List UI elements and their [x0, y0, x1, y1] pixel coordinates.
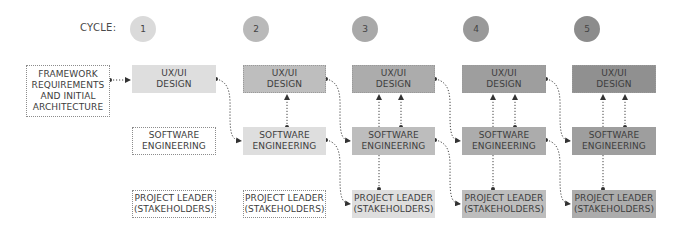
software-engineering-box-cycle-1: SOFTWARE ENGINEERING	[132, 127, 216, 155]
sw-label-line-2: ENGINEERING	[472, 141, 536, 152]
sw-label-line-2: ENGINEERING	[362, 141, 426, 152]
framework-line-2: REQUIREMENTS	[32, 80, 105, 91]
ux-design-box-cycle-4: UX/UI DESIGN	[462, 65, 546, 93]
pl-label-line-1: PROJECT LEADER	[465, 193, 544, 204]
framework-line-3: AND INITIAL	[40, 91, 95, 102]
framework-line-4: ARCHITECTURE	[33, 102, 103, 113]
sw-label-line-1: SOFTWARE	[149, 130, 200, 141]
ux-design-box-cycle-5: UX/UI DESIGN	[572, 65, 656, 93]
software-engineering-box-cycle-5: SOFTWARE ENGINEERING	[572, 127, 656, 155]
project-leader-box-cycle-1: PROJECT LEADER (STAKEHOLDERS)	[132, 190, 216, 218]
ux-label-line-1: UX/UI	[601, 68, 627, 79]
pl-label-line-1: PROJECT LEADER	[354, 193, 433, 204]
project-leader-box-cycle-3: PROJECT LEADER (STAKEHOLDERS)	[352, 190, 435, 218]
ux-label-line-2: DESIGN	[156, 79, 191, 90]
sw-label-line-1: SOFTWARE	[259, 130, 310, 141]
ux-design-box-cycle-2: UX/UI DESIGN	[243, 65, 326, 93]
pl-label-line-2: (STAKEHOLDERS)	[353, 204, 433, 215]
sw-label-line-1: SOFTWARE	[589, 130, 640, 141]
project-leader-box-cycle-5: PROJECT LEADER (STAKEHOLDERS)	[572, 190, 656, 218]
pl-label-line-2: (STAKEHOLDERS)	[134, 204, 214, 215]
project-leader-box-cycle-2: PROJECT LEADER (STAKEHOLDERS)	[243, 190, 326, 218]
software-engineering-box-cycle-4: SOFTWARE ENGINEERING	[462, 127, 546, 155]
sw-label-line-1: SOFTWARE	[479, 130, 530, 141]
pl-label-line-1: PROJECT LEADER	[575, 193, 654, 204]
ux-label-line-1: UX/UI	[161, 68, 187, 79]
sw-label-line-2: ENGINEERING	[253, 141, 317, 152]
sw-label-line-1: SOFTWARE	[368, 130, 419, 141]
pl-label-line-1: PROJECT LEADER	[135, 193, 214, 204]
pl-label-line-2: (STAKEHOLDERS)	[244, 204, 324, 215]
ux-label-line-1: UX/UI	[381, 68, 407, 79]
ux-label-line-2: DESIGN	[267, 79, 302, 90]
ux-label-line-1: UX/UI	[272, 68, 298, 79]
ux-label-line-2: DESIGN	[376, 79, 411, 90]
framework-line-1: FRAMEWORK	[38, 69, 98, 80]
sw-label-line-2: ENGINEERING	[142, 141, 206, 152]
project-leader-box-cycle-4: PROJECT LEADER (STAKEHOLDERS)	[462, 190, 546, 218]
ux-label-line-2: DESIGN	[596, 79, 631, 90]
pl-label-line-2: (STAKEHOLDERS)	[464, 204, 544, 215]
sw-label-line-2: ENGINEERING	[582, 141, 646, 152]
software-engineering-box-cycle-3: SOFTWARE ENGINEERING	[352, 127, 435, 155]
pl-label-line-1: PROJECT LEADER	[245, 193, 324, 204]
ux-label-line-2: DESIGN	[486, 79, 521, 90]
ux-design-box-cycle-3: UX/UI DESIGN	[352, 65, 435, 93]
ux-design-box-cycle-1: UX/UI DESIGN	[132, 65, 216, 93]
software-engineering-box-cycle-2: SOFTWARE ENGINEERING	[243, 127, 326, 155]
framework-requirements-box: FRAMEWORK REQUIREMENTS AND INITIAL ARCHI…	[26, 65, 110, 117]
pl-label-line-2: (STAKEHOLDERS)	[574, 204, 654, 215]
ux-label-line-1: UX/UI	[491, 68, 517, 79]
